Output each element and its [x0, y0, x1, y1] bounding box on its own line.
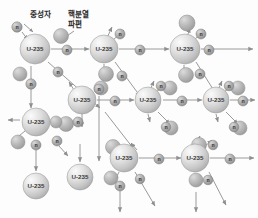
fragment-label-1: 핵분열 — [68, 10, 88, 19]
fragment-label-2: 파편 — [68, 20, 82, 29]
neutron-label: n — [120, 73, 123, 79]
neutron-label: n — [138, 47, 141, 53]
neutron-label: n — [157, 156, 160, 162]
nucleus-label: U-235 — [74, 96, 91, 103]
neutron-label: n — [118, 183, 121, 189]
neutron: n — [195, 69, 205, 79]
neutron: n — [238, 96, 248, 106]
neutron-label: n — [118, 31, 121, 37]
nucleus-label: U-235 — [187, 154, 204, 161]
neutron-label: n — [211, 142, 214, 148]
neutron-label: n — [241, 98, 244, 104]
fission-fragment — [50, 116, 62, 128]
neutron-label: n — [76, 119, 79, 125]
neutron: n — [196, 29, 206, 39]
neutron: n — [224, 81, 234, 91]
neutron: n — [204, 45, 214, 55]
nucleus-label: U-235 — [27, 45, 44, 52]
neutron: n — [53, 67, 63, 77]
fission-fragment — [54, 29, 69, 44]
neutron: n — [225, 154, 235, 164]
reaction-arrow — [216, 114, 218, 122]
neutron-label: n — [232, 124, 235, 130]
nucleus-label: U-235 — [72, 173, 89, 180]
neutron-label: n — [199, 31, 202, 37]
uranium-235-nucleus: U-235 — [67, 164, 93, 190]
neutron-label: n — [55, 138, 58, 144]
uranium-235-nucleus: U-235 — [90, 35, 118, 63]
neutron: n — [135, 174, 145, 184]
neutron-label: n — [138, 176, 141, 182]
neutron-label: n — [113, 98, 116, 104]
uranium-235-nucleus: U-235 — [203, 87, 229, 113]
neutron: n — [177, 96, 187, 106]
neutron-label: n — [65, 47, 68, 53]
neutron: n — [12, 22, 22, 32]
neutron: n — [115, 29, 125, 39]
nucleus-label: U-235 — [208, 96, 225, 103]
neutron: n — [26, 79, 36, 89]
nucleus-label: U-235 — [177, 45, 194, 52]
neutron-label: n — [15, 24, 18, 30]
neutron-label: n — [207, 47, 210, 53]
reaction-arrow — [148, 114, 150, 122]
uranium-235-nucleus: U-235 — [20, 34, 50, 64]
neutron-label: n — [56, 69, 59, 75]
neutron: n — [203, 175, 213, 185]
uranium-235-nucleus: U-235 — [23, 173, 49, 199]
neutron: n — [52, 136, 62, 146]
neutron-label: n — [164, 124, 167, 130]
fission-fragment — [11, 135, 25, 149]
uranium-235-nucleus: U-235 — [135, 87, 161, 113]
neutron-label: n — [34, 142, 37, 148]
uranium-235-nucleus: U-235 — [181, 144, 209, 172]
legend-leader-line — [24, 24, 33, 32]
reaction-arrow — [59, 146, 68, 156]
fission-fragment — [179, 15, 195, 31]
fission-fragment — [189, 173, 203, 187]
neutron-label: n — [180, 98, 183, 104]
neutron: n — [156, 81, 166, 91]
neutron-label: n — [206, 177, 209, 183]
neutron-label: n — [159, 83, 162, 89]
fission-fragment — [13, 67, 27, 81]
neutron-label: n — [29, 81, 32, 87]
neutron: n — [94, 84, 104, 94]
neutron: n — [115, 181, 125, 191]
nucleus-label: U-235 — [28, 118, 45, 125]
uranium-235-nucleus: U-235 — [22, 108, 50, 136]
neutron: n — [154, 154, 164, 164]
neutron-label: n — [198, 71, 201, 77]
uranium-235-nucleus: U-235 — [68, 86, 96, 114]
neutron: n — [62, 45, 72, 55]
neutron-label: n — [227, 83, 230, 89]
uranium-235-nucleus: U-235 — [110, 144, 138, 172]
neutron: n — [31, 140, 41, 150]
neutron-label: n — [228, 156, 231, 162]
neutron-label: 중성자 — [30, 10, 50, 19]
neutron: n — [229, 122, 239, 132]
neutron: n — [208, 140, 218, 150]
uranium-235-nucleus: U-235 — [170, 34, 200, 64]
diagram-canvas: U-235U-235U-235U-235U-235U-235U-235U-235… — [0, 0, 258, 218]
nucleus-label: U-235 — [116, 154, 133, 161]
neutron: n — [73, 117, 83, 127]
chain-reaction-figure: U-235U-235U-235U-235U-235U-235U-235U-235… — [0, 0, 258, 218]
neutron: n — [117, 71, 127, 81]
neutron: n — [135, 45, 145, 55]
fission-fragment — [99, 67, 114, 82]
fission-fragment — [179, 68, 194, 83]
neutron-label: n — [97, 86, 100, 92]
nucleus-label: U-235 — [140, 96, 157, 103]
neutron: n — [110, 96, 120, 106]
neutron: n — [161, 122, 171, 132]
nucleus-label: U-235 — [28, 182, 45, 189]
nucleus-label: U-235 — [96, 45, 113, 52]
